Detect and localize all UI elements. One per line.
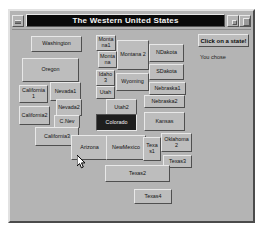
application-window: The Western United States WashingtonMont… — [8, 9, 255, 223]
state-map: WashingtonMontana1MontanaMontana 2NDakot… — [18, 34, 193, 220]
state-button-idaho3[interactable]: Idaho3 — [96, 70, 115, 86]
chosen-state-label: You chose — [198, 54, 249, 60]
prompt-label: Click on a state! — [198, 34, 249, 47]
maximize-button[interactable] — [239, 15, 251, 27]
state-button-montana-2[interactable]: Montana 2 — [117, 40, 149, 70]
state-button-arizona[interactable]: Arizona — [71, 135, 108, 160]
state-button-texas2[interactable]: Texas2 — [105, 165, 170, 182]
window-menu-button[interactable] — [12, 15, 24, 27]
state-button-montana1[interactable]: Montana1 — [96, 35, 116, 51]
info-panel: Click on a state! You chose — [198, 34, 249, 60]
state-button-washington[interactable]: Washington — [31, 36, 82, 52]
state-button-nevada2[interactable]: Nevada2 — [56, 99, 82, 116]
state-button-california2[interactable]: California2 — [19, 106, 50, 125]
state-button-texas4[interactable]: Texas4 — [134, 189, 172, 204]
state-button-newmexico[interactable]: NewMexico — [106, 135, 146, 160]
state-button-sdakota[interactable]: SDakota — [149, 64, 184, 80]
state-button-california1[interactable]: California1 — [19, 85, 48, 103]
state-button-kansas[interactable]: Kansas — [144, 112, 185, 131]
state-button-montana[interactable]: Montana — [98, 51, 117, 68]
window-title: The Western United States — [72, 16, 178, 25]
title-bar: The Western United States — [12, 13, 251, 28]
state-button-oklahoma2[interactable]: Oklahoma2 — [161, 133, 192, 152]
state-button-texas1[interactable]: Texas1 — [143, 137, 161, 161]
state-button-utah[interactable]: Utah — [96, 86, 115, 99]
state-button-oregon[interactable]: Oregon — [22, 58, 79, 82]
state-button-colorado[interactable]: Colorado — [96, 114, 137, 131]
client-area: WashingtonMontana1MontanaMontana 2NDakot… — [12, 29, 251, 219]
state-button-nebraska1[interactable]: Nebraska1 — [149, 82, 186, 95]
title-strip: The Western United States — [26, 14, 225, 27]
minimize-button[interactable] — [227, 15, 239, 27]
state-button-wyoming[interactable]: Wyoming — [116, 73, 149, 91]
state-button-nebraska2[interactable]: Nebraska2 — [144, 95, 185, 108]
state-button-ndakota[interactable]: NDakota — [149, 44, 184, 62]
